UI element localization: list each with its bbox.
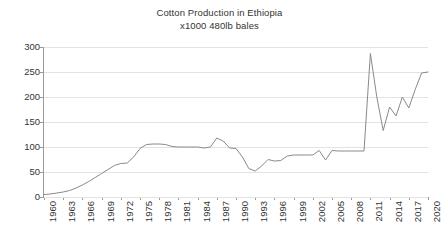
x-tick-label-1987: 1987 xyxy=(221,201,231,222)
x-tick-label-1972: 1972 xyxy=(125,201,135,222)
x-tick-label-1984: 1984 xyxy=(202,201,212,222)
x-tick-label-1981: 1981 xyxy=(182,201,192,222)
data-series-layer xyxy=(44,47,428,197)
x-tick-label-1978: 1978 xyxy=(163,201,173,222)
x-tick-label-1969: 1969 xyxy=(106,201,116,222)
x-tick-label-2002: 2002 xyxy=(317,201,327,222)
x-tick-label-2020: 2020 xyxy=(432,201,442,222)
x-tick-label-1975: 1975 xyxy=(144,201,154,222)
x-tick-label-2005: 2005 xyxy=(336,201,346,222)
plot-area xyxy=(44,47,428,197)
x-tick-mark-2020 xyxy=(428,197,429,200)
x-tick-label-1996: 1996 xyxy=(278,201,288,222)
line-series-cotton-production xyxy=(44,54,428,195)
x-tick-label-1999: 1999 xyxy=(298,201,308,222)
x-tick-label-1990: 1990 xyxy=(240,201,250,222)
x-tick-label-2014: 2014 xyxy=(394,201,404,222)
x-tick-label-2011: 2011 xyxy=(374,201,384,221)
x-tick-label-1966: 1966 xyxy=(86,201,96,222)
x-tick-label-2008: 2008 xyxy=(355,201,365,222)
x-tick-label-2017: 2017 xyxy=(413,201,423,222)
x-tick-label-1963: 1963 xyxy=(67,201,77,222)
x-tick-label-1993: 1993 xyxy=(259,201,269,222)
x-tick-label-1960: 1960 xyxy=(48,201,58,222)
